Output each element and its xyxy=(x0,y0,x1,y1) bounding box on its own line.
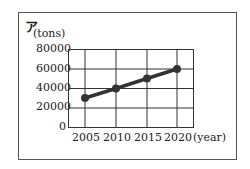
data-point-2015 xyxy=(143,75,151,83)
data-line xyxy=(85,69,177,98)
data-point-2005 xyxy=(81,94,89,102)
plot-area xyxy=(0,0,250,169)
grid xyxy=(68,49,194,128)
data-point-2020 xyxy=(173,65,181,73)
data-point-2010 xyxy=(112,85,120,93)
